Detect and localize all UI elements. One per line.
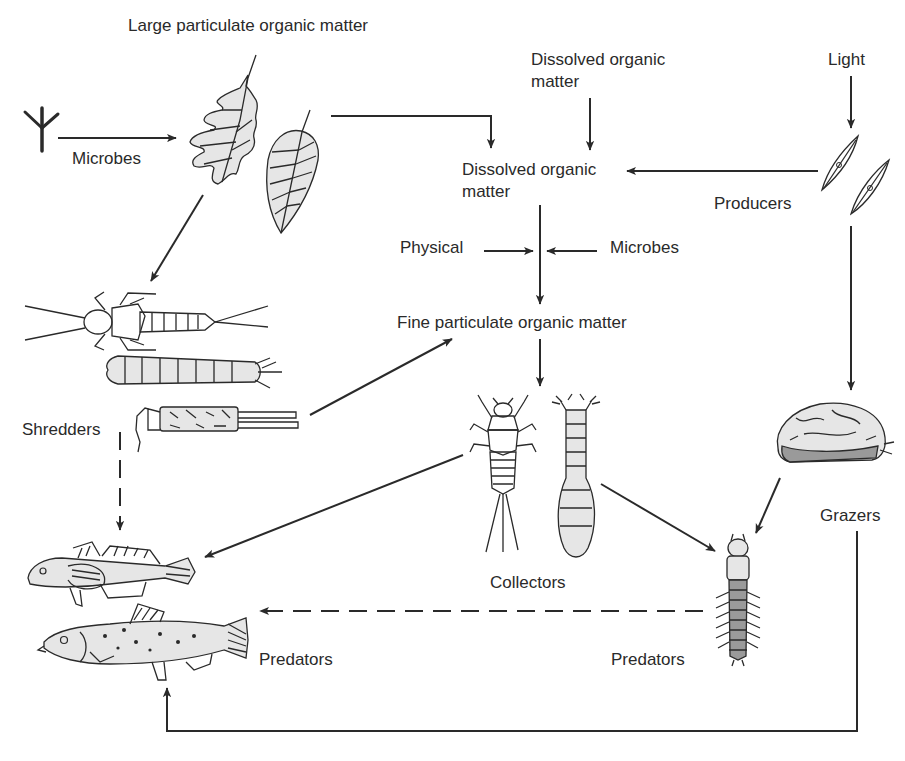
food-web-diagram: Large particulate organic matter Microbe… [0,0,905,761]
label-microbes-top: Microbes [72,149,141,168]
diatom-icon [822,136,889,214]
arrow-grazers-to-insect-predator [756,478,780,533]
label-dissolved-organic-matter-line2: matter [462,182,511,201]
arrow-collectors-to-insect-predator [601,484,715,551]
mayfly-nymph-icon [470,395,536,552]
label-physical: Physical [400,238,463,257]
microbe-hypha-icon [25,108,58,151]
cranefly-larva-icon [107,356,282,388]
arrow-grazers-to-fish [167,531,857,731]
label-collectors: Collectors [490,573,566,592]
stonefly-nymph-icon [25,292,268,350]
arrow-collectors-to-fish [205,455,463,557]
label-dissolved-organic-matter-input-line2: matter [531,72,580,91]
label-large-particulate-organic-matter: Large particulate organic matter [128,16,368,35]
arrow-shredders-to-fpom [310,339,452,415]
caddisfly-case-icon [136,407,298,452]
label-grazers: Grazers [820,506,880,525]
elm-leaf-icon [267,110,319,233]
label-producers: Producers [714,194,791,213]
sculpin-fish-icon [28,542,195,606]
label-predators-insect: Predators [611,650,685,669]
blackfly-larva-icon [552,394,600,557]
label-fine-particulate-organic-matter: Fine particulate organic matter [397,313,627,332]
oak-leaf-icon [190,55,257,184]
hellgrammite-icon [716,534,760,666]
label-dissolved-organic-matter-line1: Dissolved organic [462,160,597,179]
label-predators-fish: Predators [259,650,333,669]
label-shredders: Shredders [22,420,100,439]
arrow-lpom-to-dom [331,116,491,148]
label-microbes-mid: Microbes [610,238,679,257]
trout-fish-icon [38,604,248,680]
grazer-case-icon [777,403,894,462]
label-light: Light [828,50,865,69]
arrow-lpom-to-shredders [151,195,203,281]
label-dissolved-organic-matter-input-line1: Dissolved organic [531,50,666,69]
